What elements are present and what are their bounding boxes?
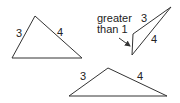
triangle-acute: [12, 16, 82, 58]
triangle-thin: [132, 7, 171, 55]
annotation-arrow: [119, 38, 130, 46]
side-label-4: 4: [151, 34, 157, 45]
triangles-diagram: [0, 0, 180, 103]
annotation-line2: than 1: [97, 24, 128, 35]
side-label-4: 4: [57, 27, 63, 38]
side-label-3: 3: [141, 13, 147, 24]
side-label-3: 3: [16, 28, 22, 39]
side-label-4: 4: [137, 71, 143, 82]
side-label-3: 3: [80, 71, 86, 82]
